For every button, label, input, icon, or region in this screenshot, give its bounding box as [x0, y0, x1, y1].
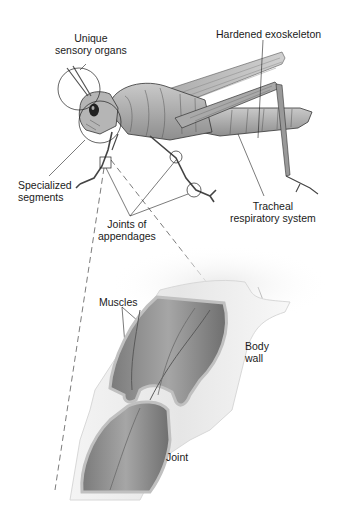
label-specialized-segments: Specialized segments — [18, 179, 72, 203]
label-hardened-exoskeleton: Hardened exoskeleton — [216, 28, 321, 40]
leg-cutaway-illustration — [70, 245, 330, 500]
label-sensory-organs: Unique sensory organs — [55, 32, 127, 56]
sensory-organ-callout-circle — [58, 68, 100, 110]
label-tracheal-respiratory-system: Tracheal respiratory system — [230, 200, 316, 224]
grasshopper-anatomy-diagram: Unique sensory organs Hardened exoskelet… — [0, 0, 339, 508]
label-joint: Joint — [166, 451, 188, 463]
label-body-wall: Body wall — [245, 340, 269, 364]
label-muscles: Muscles — [99, 296, 138, 308]
hind-leg-joint-circle — [187, 183, 201, 197]
grasshopper-illustration — [67, 52, 318, 202]
label-joints-of-appendages: Joints of appendages — [98, 218, 156, 242]
diagram-art — [0, 0, 339, 508]
